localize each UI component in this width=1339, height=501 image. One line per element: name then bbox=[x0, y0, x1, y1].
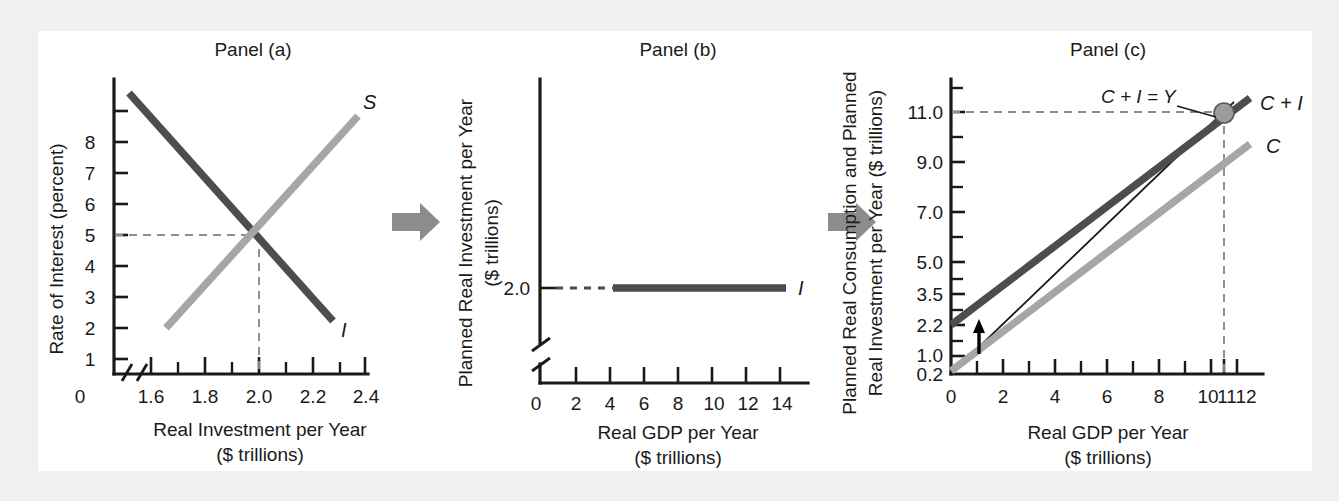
panel-b-curve-label-i: I bbox=[798, 277, 804, 299]
panel-a-x-ticks bbox=[151, 357, 365, 374]
panel-c-x-axis-title-line2: ($ trillions) bbox=[1064, 447, 1152, 468]
panel-c-y-tick-5: 5.0 bbox=[917, 252, 943, 273]
figure-white-panel: Panel (a) Rate of Interest (percent) bbox=[38, 31, 1312, 471]
panel-c-y-tick-labels: 11.0 9.0 7.0 5.0 3.5 2.2 1.0 0.2 bbox=[907, 102, 943, 385]
panel-a-saving-curve bbox=[166, 116, 358, 328]
flow-arrow-a-to-b bbox=[392, 203, 440, 241]
panel-a-y-tick-8: 8 bbox=[85, 132, 96, 153]
figure-container: Panel (a) Rate of Interest (percent) bbox=[0, 0, 1339, 501]
panel-b-x-tick-labels: 0 2 4 6 8 10 12 14 bbox=[531, 393, 793, 414]
panel-a-x-tick-3: 2.0 bbox=[246, 386, 272, 407]
panel-a-y-tick-1: 1 bbox=[85, 349, 96, 370]
panel-b-y-axis-title-line1: Planned Real Investment per Year bbox=[455, 98, 476, 387]
panel-a-y-tick-2: 2 bbox=[85, 318, 96, 339]
panel-c-x-tick-10: 10 bbox=[1197, 386, 1218, 407]
panel-c-y-axis-title-line1: Planned Real Consumption and Planned bbox=[839, 71, 860, 414]
panel-a-y-tick-7: 7 bbox=[85, 163, 96, 184]
panel-b-x-tick-5: 10 bbox=[703, 393, 724, 414]
panel-c-x-tick-2: 2 bbox=[998, 386, 1009, 407]
panel-b-x-tick-4: 8 bbox=[673, 393, 684, 414]
panel-b-title: Panel (b) bbox=[639, 39, 716, 60]
panel-c-y-tick-35: 3.5 bbox=[917, 284, 943, 305]
panel-c-group: Panel (c) Planned Real Consumption and P… bbox=[839, 39, 1303, 468]
panel-a-x-tick-2: 1.8 bbox=[192, 386, 218, 407]
panel-c-y-tick-9: 9.0 bbox=[917, 152, 943, 173]
panel-a-y-tick-6: 6 bbox=[85, 194, 96, 215]
panel-a-x-tick-5: 2.4 bbox=[353, 386, 380, 407]
panel-c-y-tick-10: 1.0 bbox=[917, 345, 943, 366]
panel-b-x-ticks bbox=[576, 367, 780, 383]
panel-a-y-tick-3: 3 bbox=[85, 287, 96, 308]
panel-c-curve-label-ci: C + I bbox=[1260, 92, 1303, 114]
panel-a-x-tick-4: 2.2 bbox=[300, 386, 326, 407]
panel-c-title: Panel (c) bbox=[1070, 39, 1146, 60]
panel-a-y-tick-labels: 8 7 6 5 4 3 2 1 bbox=[85, 132, 96, 370]
panel-c-consumption-plus-investment-curve bbox=[951, 98, 1250, 325]
panel-b-x-axis-title-line2: ($ trillions) bbox=[634, 447, 722, 468]
panel-a-title: Panel (a) bbox=[214, 39, 291, 60]
panel-b-x-axis-title-line1: Real GDP per Year bbox=[597, 422, 759, 443]
panel-c-curve-label-c: C bbox=[1266, 135, 1281, 157]
panel-a-x-origin: 0 bbox=[75, 386, 86, 407]
panel-c-x-tick-4: 4 bbox=[1050, 386, 1061, 407]
panel-a-x-axis-title-line1: Real Investment per Year bbox=[153, 419, 367, 440]
panel-a-group: Panel (a) Rate of Interest (percent) bbox=[46, 39, 380, 465]
three-panel-figure: Panel (a) Rate of Interest (percent) bbox=[38, 31, 1312, 471]
panel-c-x-tick-labels: 0 2 4 6 8 10 11 12 bbox=[946, 386, 1257, 407]
panel-c-y-tick-02: 0.2 bbox=[917, 364, 943, 385]
panel-c-y-tick-11: 11.0 bbox=[907, 102, 943, 123]
panel-a-y-axis-title: Rate of Interest (percent) bbox=[46, 143, 67, 354]
panel-a-curve-label-s: S bbox=[363, 91, 377, 113]
panel-b-x-tick-3: 6 bbox=[639, 393, 650, 414]
panel-b-axis-break bbox=[532, 338, 550, 371]
panel-c-x-origin: 0 bbox=[946, 386, 957, 407]
panel-b-y-axis-title-line2: ($ trillions) bbox=[481, 199, 502, 287]
panel-a-x-axis-title-line2: ($ trillions) bbox=[216, 444, 304, 465]
panel-c-x-ticks bbox=[977, 359, 1237, 374]
panel-a-y-tick-5: 5 bbox=[85, 225, 96, 246]
panel-a-x-tick-labels: 0 1.6 1.8 2.0 2.2 2.4 bbox=[75, 386, 380, 407]
panel-c-y-tick-22: 2.2 bbox=[917, 315, 943, 336]
panel-a-investment-curve bbox=[129, 93, 333, 321]
panel-a-y-tick-4: 4 bbox=[85, 256, 96, 277]
panel-b-x-tick-6: 12 bbox=[737, 393, 758, 414]
panel-c-equilibrium-label: C + I = Y bbox=[1101, 86, 1177, 107]
panel-c-x-axis-title-line1: Real GDP per Year bbox=[1027, 422, 1189, 443]
panel-b-x-tick-2: 4 bbox=[605, 393, 616, 414]
panel-c-x-tick-12: 12 bbox=[1235, 386, 1256, 407]
panel-b-group: Panel (b) Planned Real Investment per Ye… bbox=[455, 39, 808, 468]
panel-b-x-tick-7: 14 bbox=[771, 393, 793, 414]
panel-c-consumption-curve bbox=[951, 144, 1250, 371]
panel-b-x-origin: 0 bbox=[531, 393, 542, 414]
panel-b-y-tick-label-2: 2.0 bbox=[504, 278, 530, 299]
panel-c-y-tick-7: 7.0 bbox=[917, 202, 943, 223]
panel-c-x-tick-8: 8 bbox=[1154, 386, 1165, 407]
panel-c-y-axis-title-line2: Real Investment per Year ($ trillions) bbox=[865, 90, 886, 396]
panel-a-x-tick-1: 1.6 bbox=[138, 386, 164, 407]
panel-b-x-tick-1: 2 bbox=[571, 393, 582, 414]
panel-c-equilibrium-dot bbox=[1214, 103, 1234, 123]
panel-c-x-tick-6: 6 bbox=[1102, 386, 1113, 407]
panel-c-x-tick-11: 11 bbox=[1217, 386, 1237, 407]
panel-a-curve-label-i: I bbox=[341, 319, 347, 341]
